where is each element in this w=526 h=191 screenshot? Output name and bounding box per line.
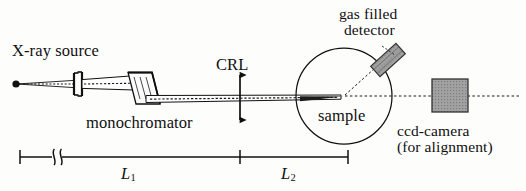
beam-source-to-slit <box>17 80 74 87</box>
label-xray-source: X-ray source <box>12 42 99 59</box>
label-distance-l2-symbol: L <box>281 164 290 183</box>
label-distance-l2: L2 <box>281 165 296 183</box>
label-distance-l1-symbol: L <box>121 164 130 183</box>
label-gas-filled-detector: gas filled detector <box>339 6 397 39</box>
label-gas-filled-detector-line1: gas filled <box>339 5 397 22</box>
label-ccd-camera-line1: ccd-camera <box>397 122 469 139</box>
ccd-camera <box>432 79 468 112</box>
label-monochromator: monochromator <box>86 114 193 131</box>
label-sample: sample <box>318 107 365 124</box>
label-crl: CRL <box>216 56 248 73</box>
label-ccd-camera-line2: (for alignment) <box>397 139 493 155</box>
figure-canvas: X-ray source monochromator CRL gas fille… <box>0 0 526 191</box>
distance-scale <box>20 149 348 165</box>
x-ray-source-point <box>12 80 19 87</box>
label-distance-l1: L1 <box>121 165 136 183</box>
beam-monochromator-to-sample <box>146 95 343 103</box>
entrance-slit <box>74 72 82 96</box>
label-gas-filled-detector-line2: detector <box>339 22 397 38</box>
scale-break-symbol <box>53 149 55 165</box>
label-distance-l2-subscript: 2 <box>290 172 296 183</box>
setup-diagram <box>0 0 526 191</box>
label-ccd-camera: ccd-camera (for alignment) <box>397 123 493 156</box>
label-distance-l1-subscript: 1 <box>130 172 136 183</box>
